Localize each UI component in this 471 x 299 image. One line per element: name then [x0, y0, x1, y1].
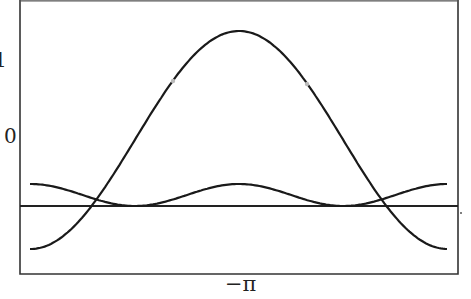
marker-dot: [171, 79, 175, 83]
y-tick-label-0: 0: [4, 124, 17, 148]
x-tick-label-minus-pi: −π: [225, 272, 256, 296]
marker-dot: [305, 82, 309, 86]
plot-frame: [20, 0, 458, 274]
large-bump-curve: [30, 31, 447, 249]
chart-plot: [0, 0, 471, 299]
edge-dot: [460, 212, 462, 214]
y-tick-label-1: 1: [0, 48, 7, 72]
